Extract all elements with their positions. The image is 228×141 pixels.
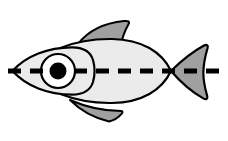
- fish-diagram: [0, 0, 228, 141]
- figure-canvas: Fish with horizontal line of symmetry fi…: [0, 0, 228, 141]
